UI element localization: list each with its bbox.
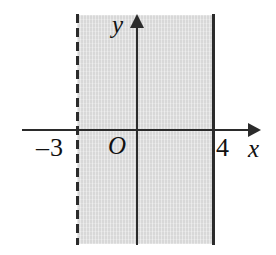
y-axis-line	[136, 26, 138, 245]
y-axis-label: y	[112, 12, 123, 37]
tick-label-minus-three: –3	[36, 135, 64, 161]
coordinate-plane-figure: y x O –3 4	[0, 0, 276, 255]
tick-label-four: 4	[216, 135, 229, 161]
right-boundary-solid-line	[212, 14, 215, 245]
x-axis-label: x	[248, 136, 259, 161]
origin-label: O	[108, 133, 126, 158]
y-axis-arrow-icon	[130, 14, 144, 28]
left-boundary-dashed-line	[76, 14, 79, 245]
